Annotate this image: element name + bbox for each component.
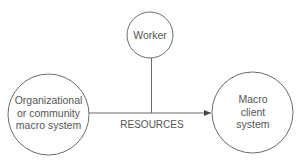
worker-node: Worker [127,12,173,58]
resources-label: RESOURCES [120,119,184,130]
worker-label: Worker [133,29,167,41]
target-node: Macro client system [212,72,293,153]
target-label-line-3: system [236,118,270,130]
source-node: Organizational or community macro system [8,74,89,155]
source-label-line-1: Organizational [15,94,83,106]
target-label-line-1: Macro [238,93,267,105]
resource-flow-diagram: Worker RESOURCES Organizational or commu… [0,0,304,164]
source-label-line-3: macro system [16,119,82,131]
target-label-line-2: client [241,106,266,118]
source-label-line-2: or community [17,107,81,119]
